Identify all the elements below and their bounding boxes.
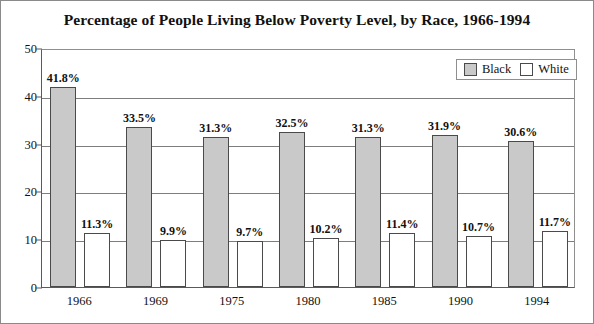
legend-label: White	[538, 62, 569, 77]
bar-value-label: 31.3%	[352, 121, 385, 136]
plot-area: 41.8%11.3%33.5%9.9%31.3%9.7%32.5%10.2%31…	[41, 49, 575, 288]
bar-black-1969: 33.5%	[126, 127, 152, 287]
x-axis-tick-label: 1980	[296, 294, 321, 309]
x-axis-tick-label: 1985	[372, 294, 397, 309]
bar-group: 32.5%10.2%	[271, 50, 347, 287]
bar-value-label: 32.5%	[275, 116, 308, 131]
bar-group: 41.8%11.3%	[42, 50, 118, 287]
bar-value-label: 33.5%	[123, 111, 156, 126]
bar-black-1985: 31.3%	[355, 137, 381, 287]
y-axis-tick-label: 50	[7, 42, 37, 57]
bar-value-label: 30.6%	[504, 125, 537, 140]
bar-black-1975: 31.3%	[203, 137, 229, 287]
bar-value-label: 11.7%	[539, 215, 571, 230]
x-axis-tick-label: 1990	[448, 294, 473, 309]
bar-group: 31.3%9.7%	[195, 50, 271, 287]
bar-black-1990: 31.9%	[432, 135, 458, 287]
bar-value-label: 41.8%	[47, 71, 80, 86]
bar-white-1994: 11.7%	[542, 231, 568, 287]
chart-figure: Percentage of People Living Below Povert…	[0, 0, 594, 324]
bar-white-1980: 10.2%	[313, 238, 339, 287]
bar-white-1975: 9.7%	[237, 241, 263, 287]
bar-value-label: 9.7%	[236, 225, 263, 240]
bar-value-label: 11.4%	[386, 217, 418, 232]
bar-value-label: 31.9%	[428, 119, 461, 134]
bar-value-label: 31.3%	[199, 121, 232, 136]
x-axis-tick-label: 1969	[143, 294, 168, 309]
legend-item-white: White	[520, 62, 569, 77]
y-axis-tick-label: 0	[7, 281, 37, 296]
bar-black-1966: 41.8%	[50, 87, 76, 287]
x-axis-tick-label: 1994	[524, 294, 549, 309]
bar-white-1966: 11.3%	[84, 233, 110, 287]
y-axis-tick-label: 40	[7, 89, 37, 104]
legend-label: Black	[482, 62, 511, 77]
y-axis-tick-label: 10	[7, 233, 37, 248]
bar-value-label: 11.3%	[81, 217, 113, 232]
legend-swatch-black	[464, 63, 477, 76]
bar-value-label: 9.9%	[160, 224, 187, 239]
bar-group: 30.6%11.7%	[500, 50, 576, 287]
chart-legend: BlackWhite	[456, 59, 577, 80]
legend-item-black: Black	[464, 62, 511, 77]
y-axis-tick-label: 20	[7, 185, 37, 200]
bar-white-1985: 11.4%	[389, 233, 415, 287]
bar-black-1980: 32.5%	[279, 132, 305, 287]
x-axis-tick-label: 1975	[219, 294, 244, 309]
bar-group: 31.3%11.4%	[347, 50, 423, 287]
x-axis-tick-label: 1966	[67, 294, 92, 309]
bar-value-label: 10.2%	[309, 222, 342, 237]
chart-title: Percentage of People Living Below Povert…	[1, 11, 593, 29]
bar-group: 33.5%9.9%	[118, 50, 194, 287]
bar-black-1994: 30.6%	[508, 141, 534, 287]
legend-swatch-white	[520, 63, 533, 76]
bar-group: 31.9%10.7%	[423, 50, 499, 287]
bar-value-label: 10.7%	[462, 220, 495, 235]
bar-white-1990: 10.7%	[466, 236, 492, 287]
y-axis-tick-label: 30	[7, 137, 37, 152]
bar-white-1969: 9.9%	[160, 240, 186, 287]
